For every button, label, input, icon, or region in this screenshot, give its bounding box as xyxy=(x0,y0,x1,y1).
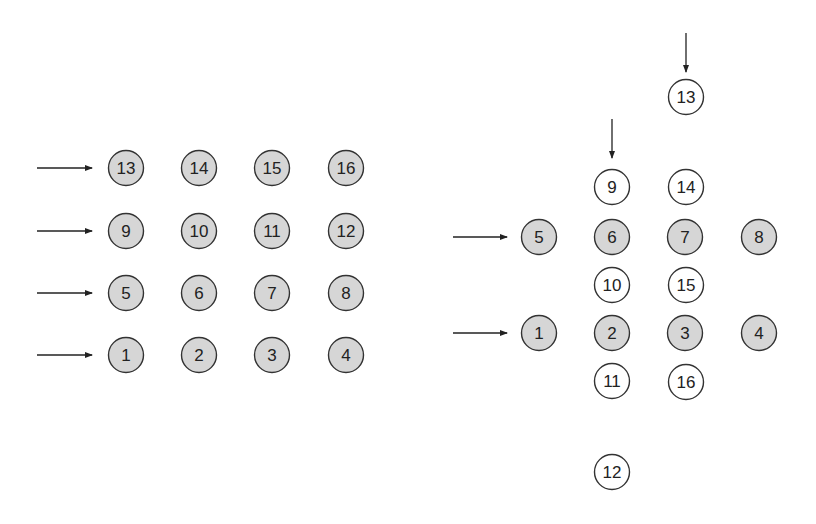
node-label: 16 xyxy=(677,373,696,392)
node-label: 3 xyxy=(680,324,689,343)
right-node-13: 13 xyxy=(669,80,704,115)
right-node-12: 12 xyxy=(595,455,630,490)
node-label: 10 xyxy=(190,222,209,241)
node-label: 7 xyxy=(680,228,689,247)
left-node-12: 12 xyxy=(329,214,364,249)
node-label: 10 xyxy=(603,276,622,295)
node-label: 16 xyxy=(337,159,356,178)
node-label: 11 xyxy=(603,372,621,391)
right-node-1: 1 xyxy=(522,316,557,351)
node-label: 2 xyxy=(194,346,203,365)
node-label: 13 xyxy=(677,88,696,107)
node-label: 3 xyxy=(267,346,276,365)
right-node-15: 15 xyxy=(669,268,704,303)
node-label: 5 xyxy=(121,284,130,303)
right-node-14: 14 xyxy=(669,170,704,205)
right-node-4: 4 xyxy=(742,316,777,351)
left-node-10: 10 xyxy=(182,214,217,249)
left-node-11: 11 xyxy=(255,214,290,249)
node-label: 8 xyxy=(341,284,350,303)
left-node-3: 3 xyxy=(255,338,290,373)
node-label: 13 xyxy=(117,159,136,178)
right-layout: 13914567810151234111612 xyxy=(453,33,777,490)
left-node-2: 2 xyxy=(182,338,217,373)
left-node-15: 15 xyxy=(255,151,290,186)
left-node-9: 9 xyxy=(109,214,144,249)
node-label: 5 xyxy=(534,228,543,247)
left-node-16: 16 xyxy=(329,151,364,186)
left-node-14: 14 xyxy=(182,151,217,186)
left-node-1: 1 xyxy=(109,338,144,373)
right-node-9: 9 xyxy=(595,170,630,205)
left-node-5: 5 xyxy=(109,276,144,311)
node-label: 12 xyxy=(603,463,622,482)
node-label: 11 xyxy=(263,222,281,241)
node-label: 6 xyxy=(194,284,203,303)
left-node-8: 8 xyxy=(329,276,364,311)
node-label: 1 xyxy=(121,346,130,365)
node-label: 12 xyxy=(337,222,356,241)
node-label: 4 xyxy=(754,324,763,343)
node-label: 9 xyxy=(121,222,130,241)
right-node-6: 6 xyxy=(595,220,630,255)
left-node-6: 6 xyxy=(182,276,217,311)
node-label: 15 xyxy=(263,159,282,178)
right-node-16: 16 xyxy=(669,365,704,400)
right-node-10: 10 xyxy=(595,268,630,303)
left-node-7: 7 xyxy=(255,276,290,311)
node-label: 1 xyxy=(534,324,543,343)
node-label: 6 xyxy=(607,228,616,247)
right-node-11: 11 xyxy=(595,364,630,399)
left-node-4: 4 xyxy=(329,338,364,373)
node-label: 8 xyxy=(754,228,763,247)
left-node-13: 13 xyxy=(109,151,144,186)
right-node-7: 7 xyxy=(668,220,703,255)
right-node-3: 3 xyxy=(668,316,703,351)
node-label: 2 xyxy=(607,324,616,343)
node-label: 4 xyxy=(341,346,350,365)
diagram-canvas: 13141516910111256781234 1391456781015123… xyxy=(0,0,816,524)
left-grid: 13141516910111256781234 xyxy=(37,151,364,373)
node-label: 9 xyxy=(607,178,616,197)
node-label: 15 xyxy=(677,276,696,295)
right-node-5: 5 xyxy=(522,220,557,255)
node-label: 14 xyxy=(677,178,696,197)
right-node-2: 2 xyxy=(595,316,630,351)
right-node-8: 8 xyxy=(742,220,777,255)
node-label: 14 xyxy=(190,159,209,178)
node-label: 7 xyxy=(267,284,276,303)
